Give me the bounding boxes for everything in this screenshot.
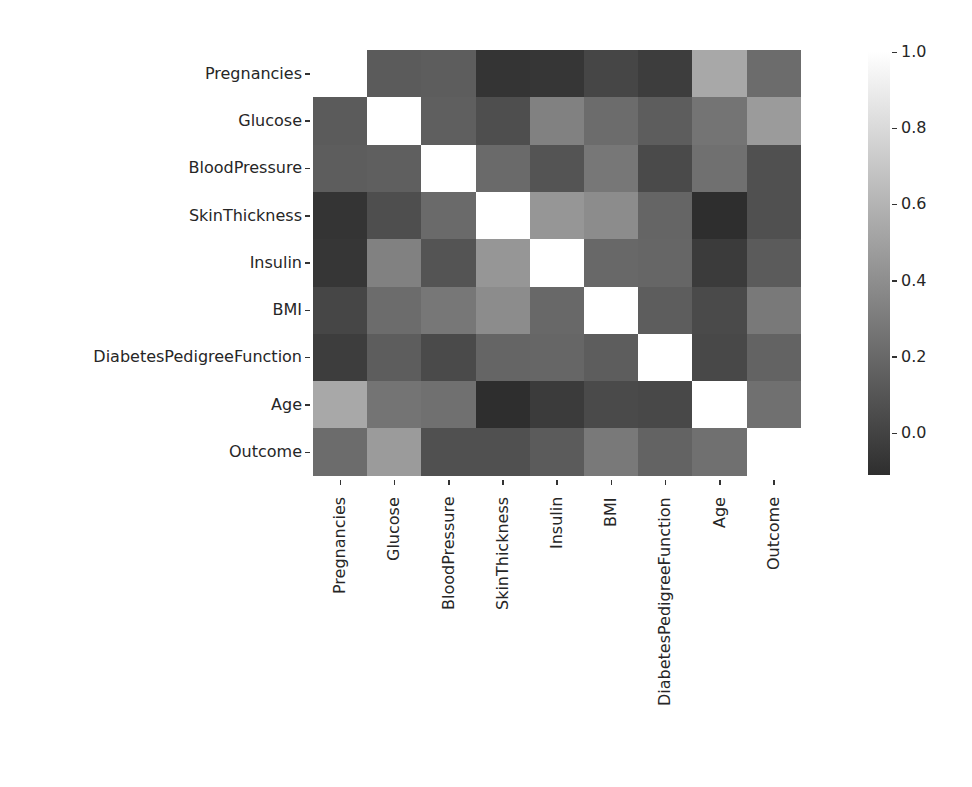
heatmap-cell (638, 428, 693, 476)
heatmap-cell (421, 145, 476, 193)
heatmap-cell (692, 239, 747, 287)
heatmap-cell (367, 50, 422, 98)
heatmap-cell (692, 287, 747, 335)
heatmap-cell (692, 428, 747, 476)
heatmap-cell (367, 287, 422, 335)
heatmap-cell (313, 287, 368, 335)
heatmap-cell (530, 50, 585, 98)
heatmap-cell (584, 50, 639, 98)
heatmap-cell (421, 287, 476, 335)
heatmap-cell (584, 145, 639, 193)
x-axis-label: Outcome (764, 497, 784, 570)
colorbar (868, 52, 890, 475)
heatmap-cell (421, 334, 476, 382)
heatmap-cell (367, 428, 422, 476)
heatmap-cell (476, 145, 531, 193)
heatmap-cell (367, 97, 422, 145)
heatmap-cell (638, 287, 693, 335)
x-axis-label: Pregnancies (330, 497, 350, 594)
heatmap-cell (421, 381, 476, 429)
heatmap-cell (313, 428, 368, 476)
heatmap-cell (584, 239, 639, 287)
x-axis-tick (773, 480, 775, 485)
heatmap-cell (638, 50, 693, 98)
heatmap-cell (747, 145, 802, 193)
heatmap-cell (584, 97, 639, 145)
x-axis-tick (719, 480, 721, 485)
heatmap-cell (313, 192, 368, 240)
y-axis-tick (305, 215, 310, 217)
heatmap-cell (530, 334, 585, 382)
heatmap-cell (747, 287, 802, 335)
heatmap-cell (530, 192, 585, 240)
y-axis-tick (305, 357, 310, 359)
heatmap-cell (530, 145, 585, 193)
heatmap-cell (638, 334, 693, 382)
y-axis-tick (305, 262, 310, 264)
heatmap-cell (584, 334, 639, 382)
y-axis-tick (305, 120, 310, 122)
colorbar-tick-label: 1.0 (901, 42, 926, 62)
x-axis-label: BloodPressure (439, 497, 459, 610)
heatmap-cell (747, 239, 802, 287)
x-axis-label: Age (710, 497, 730, 528)
heatmap-cell (313, 334, 368, 382)
heatmap-cell (747, 428, 802, 476)
x-axis-tick (448, 480, 450, 485)
y-axis-tick (305, 452, 310, 454)
y-axis-label: Age (271, 395, 302, 415)
heatmap-cell (692, 192, 747, 240)
y-axis-label: Pregnancies (205, 64, 302, 84)
heatmap-cell (747, 97, 802, 145)
colorbar-tick-label: 0.0 (901, 423, 926, 443)
heatmap-cell (584, 381, 639, 429)
heatmap-cell (530, 239, 585, 287)
heatmap-cell (747, 50, 802, 98)
colorbar-tick-label: 0.6 (901, 194, 926, 214)
heatmap-cell (584, 428, 639, 476)
heatmap-cell (638, 239, 693, 287)
heatmap-cell (476, 428, 531, 476)
y-axis-tick (305, 168, 310, 170)
heatmap-cell (584, 192, 639, 240)
x-axis-tick (611, 480, 613, 485)
heatmap-cell (367, 239, 422, 287)
y-axis-label: Glucose (238, 111, 302, 131)
heatmap-cell (530, 381, 585, 429)
heatmap-cell (476, 287, 531, 335)
y-axis-label: BMI (273, 300, 303, 320)
y-axis-tick (305, 73, 310, 75)
colorbar-tick (892, 433, 897, 435)
x-axis-label: BMI (601, 498, 621, 528)
heatmap-cell (747, 334, 802, 382)
heatmap-cell (421, 192, 476, 240)
heatmap-cell (476, 192, 531, 240)
y-axis-label: DiabetesPedigreeFunction (93, 347, 302, 367)
y-axis-tick (305, 310, 310, 312)
y-axis-label: Insulin (250, 253, 302, 273)
colorbar-tick-label: 0.2 (901, 347, 926, 367)
x-axis-tick (665, 480, 667, 485)
x-axis-label: DiabetesPedigreeFunction (655, 497, 675, 706)
heatmap-cell (421, 50, 476, 98)
y-axis-tick (305, 404, 310, 406)
heatmap-cell (638, 192, 693, 240)
y-axis-label: BloodPressure (189, 158, 302, 178)
colorbar-tick (892, 52, 897, 54)
colorbar-tick-label: 0.8 (901, 118, 926, 138)
heatmap-cell (638, 97, 693, 145)
x-axis-tick (556, 480, 558, 485)
heatmap-cell (692, 97, 747, 145)
y-axis-label: Outcome (229, 442, 302, 462)
correlation-heatmap-figure: PregnanciesGlucoseBloodPressureSkinThick… (0, 0, 972, 787)
heatmap-cell (747, 381, 802, 429)
heatmap-cell (313, 97, 368, 145)
heatmap-cell (421, 239, 476, 287)
heatmap-cell (747, 192, 802, 240)
heatmap-cell (584, 287, 639, 335)
heatmap-cell (530, 428, 585, 476)
heatmap-cell (476, 97, 531, 145)
heatmap-cell (476, 381, 531, 429)
heatmap-cell (530, 97, 585, 145)
heatmap-cell (367, 145, 422, 193)
